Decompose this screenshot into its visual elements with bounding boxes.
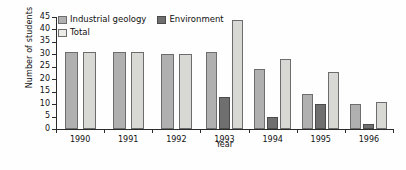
y-tick-label: 0 [45,124,50,133]
bar-environment-1995 [315,104,326,129]
legend-item-industrial-geology: Industrial geology [58,14,146,25]
y-tick: 5 [52,117,56,118]
y-tick-label: 35 [40,36,50,45]
y-tick: 45 [52,17,56,18]
y-tick: 35 [52,42,56,43]
bar-industrial-geology-1995 [302,94,313,129]
x-tick [345,129,346,133]
bar-industrial-geology-1991 [113,52,126,129]
bar-industrial-geology-1992 [161,54,174,129]
bar-industrial-geology-1990 [65,52,78,129]
y-tick: 25 [52,67,56,68]
legend-swatch-icon-industrial-geology [58,16,67,24]
y-tick-label: 10 [40,99,50,108]
bar-chart-figure: Number of students 051015202530354045 19… [0,0,406,170]
bar-environment-1993 [219,97,230,129]
bar-total-1992 [179,54,192,129]
y-tick-label: 30 [40,49,50,58]
y-tick: 10 [52,104,56,105]
x-axis-line [56,129,393,130]
y-tick-label: 20 [40,74,50,83]
bar-total-1994 [280,59,291,129]
y-tick-label: 45 [40,12,50,21]
chart-legend: Industrial geology Environment Total [58,14,232,40]
bar-total-1991 [131,52,144,129]
x-tick [104,129,105,133]
legend-item-environment: Environment [157,14,223,25]
x-tick [393,129,394,133]
bar-total-1995 [328,72,339,129]
legend-label-environment: Environment [169,14,223,25]
y-tick-label: 25 [40,61,50,70]
y-tick: 30 [52,54,56,55]
x-tick [297,129,298,133]
bar-environment-1994 [267,117,278,129]
y-tick-label: 5 [45,111,50,120]
y-tick-label: 40 [40,24,50,33]
x-tick [249,129,250,133]
x-tick [56,129,57,133]
y-tick: 40 [52,29,56,30]
legend-swatch-icon-environment [157,16,166,24]
y-axis-line [56,17,57,130]
bar-industrial-geology-1994 [254,69,265,129]
y-tick-label: 15 [40,86,50,95]
legend-label-industrial-geology: Industrial geology [70,14,146,25]
y-axis-title: Number of students [25,0,34,108]
bar-environment-1996 [363,124,374,129]
x-tick [200,129,201,133]
bar-total-1996 [376,102,387,129]
legend-label-total: Total [70,27,90,38]
y-tick: 20 [52,79,56,80]
bar-industrial-geology-1993 [206,52,217,129]
y-tick: 15 [52,92,56,93]
legend-row-primary: Industrial geology Environment [58,14,232,25]
bar-total-1990 [83,52,96,129]
legend-swatch-icon-total [58,29,67,37]
bar-total-1993 [232,20,243,130]
bar-industrial-geology-1996 [350,104,361,129]
legend-item-total: Total [58,27,90,38]
x-axis-title: Year [56,140,393,149]
legend-row-secondary: Total [58,27,232,38]
x-tick [152,129,153,133]
